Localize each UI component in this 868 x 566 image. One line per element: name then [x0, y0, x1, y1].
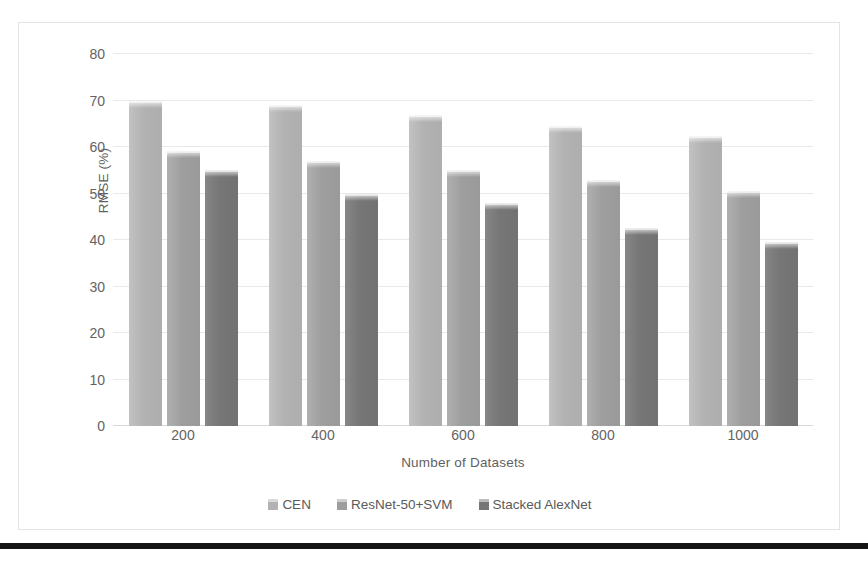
bar-top-edge [129, 101, 162, 103]
legend-item[interactable]: Stacked AlexNet [479, 497, 592, 512]
bar-top-edge [447, 170, 480, 172]
bottom-horizontal-rule [0, 543, 868, 549]
bar-top-edge [625, 228, 658, 230]
x-axis-title: Number of Datasets [113, 455, 813, 470]
legend: CENResNet-50+SVMStacked AlexNet [19, 497, 841, 512]
bar-top-edge [587, 180, 620, 182]
y-axis-tick-label: 10 [89, 372, 105, 388]
bar-groups [113, 54, 813, 426]
legend-swatch-icon [268, 499, 278, 510]
y-axis-tick-label: 40 [89, 232, 105, 248]
bar-top-edge [409, 115, 442, 117]
bar-top-edge [205, 170, 238, 172]
bar-group [269, 54, 378, 426]
bar[interactable] [625, 228, 658, 426]
y-axis-tick-label: 30 [89, 279, 105, 295]
bar[interactable] [485, 203, 518, 426]
bar-top-edge [269, 105, 302, 107]
bar-top-edge [765, 242, 798, 244]
bar-group [409, 54, 518, 426]
legend-label: CEN [282, 497, 311, 512]
x-axis-tick-label: 600 [393, 427, 533, 443]
y-axis-tick-label: 50 [89, 186, 105, 202]
bar[interactable] [345, 194, 378, 427]
bar[interactable] [167, 151, 200, 426]
plot-area [113, 51, 813, 426]
x-axis-tick-label: 400 [253, 427, 393, 443]
bar-top-edge [167, 151, 200, 153]
figure-page: RMSE (%) 80706050403020100 2004006008001… [0, 0, 868, 566]
bar-group [549, 54, 658, 426]
bar[interactable] [205, 170, 238, 426]
legend-swatch-icon [479, 499, 489, 510]
legend-label: Stacked AlexNet [493, 497, 592, 512]
y-axis-tick-label: 60 [89, 139, 105, 155]
x-axis-tick-label: 800 [533, 427, 673, 443]
bar-top-edge [689, 136, 722, 138]
bar-group [689, 54, 798, 426]
bar[interactable] [727, 191, 760, 426]
bar-top-edge [549, 126, 582, 128]
bar[interactable] [549, 126, 582, 426]
x-axis-tick-label: 1000 [673, 427, 813, 443]
y-axis-tick-labels: 80706050403020100 [59, 51, 105, 426]
bar[interactable] [307, 161, 340, 426]
x-axis-tick-labels: 2004006008001000 [113, 427, 813, 453]
y-axis-tick-label: 0 [97, 418, 105, 434]
plot-wrapper: RMSE (%) 80706050403020100 2004006008001… [19, 23, 841, 531]
bar-top-edge [307, 161, 340, 163]
bar[interactable] [689, 136, 722, 426]
x-axis-tick-label: 200 [113, 427, 253, 443]
legend-swatch-icon [337, 499, 347, 510]
bar-top-edge [727, 191, 760, 193]
y-axis-tick-label: 70 [89, 93, 105, 109]
legend-item[interactable]: CEN [268, 497, 311, 512]
bar[interactable] [409, 115, 442, 426]
bar[interactable] [587, 180, 620, 426]
bar[interactable] [129, 101, 162, 427]
bar[interactable] [765, 242, 798, 426]
legend-item[interactable]: ResNet-50+SVM [337, 497, 453, 512]
bar-group [129, 54, 238, 426]
y-axis-tick-label: 80 [89, 46, 105, 62]
bar[interactable] [269, 105, 302, 426]
bar-top-edge [485, 203, 518, 205]
bar[interactable] [447, 170, 480, 426]
chart-frame: RMSE (%) 80706050403020100 2004006008001… [18, 22, 840, 530]
legend-label: ResNet-50+SVM [351, 497, 453, 512]
bar-top-edge [345, 194, 378, 196]
y-axis-tick-label: 20 [89, 325, 105, 341]
